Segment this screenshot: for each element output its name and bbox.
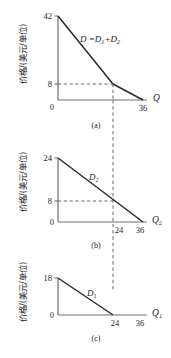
panel-a-curve-label-plus: +D — [104, 34, 117, 44]
panel-a-curve-label: D =D1+D2 — [79, 34, 120, 45]
panel-c-ytick-label-0: 0 — [50, 310, 54, 320]
panel-a-ytick-label-0: 0 — [50, 102, 54, 112]
panel-b-x-axis-name: Q2 — [152, 215, 162, 226]
panel-c-x-axis-name-sub: 1 — [159, 312, 162, 319]
panel-c-curve-label: D1 — [86, 288, 97, 299]
panel-b-ytick-label-24: 24 — [44, 153, 53, 163]
panel-c-demand-curve — [58, 278, 113, 315]
chart-panel-b: 价格/(美元/单位) 24 8 0 24 36 Q2 D2 (b) — [18, 152, 162, 250]
demand-curves-figure: 价格/(美元/单位) 42 8 0 36 Q D =D1+D2 — [0, 0, 171, 358]
panel-b-curve-label: D2 — [88, 172, 99, 183]
panel-c-ytick-label-18: 18 — [44, 273, 53, 283]
panel-a-x-axis-name: Q — [153, 93, 160, 103]
panel-b-ytick-label-8: 8 — [48, 196, 52, 206]
panel-b-xtick-label-36: 36 — [136, 225, 145, 235]
panel-a-ytick-label-8: 8 — [48, 79, 52, 89]
panel-b-y-axis-label: 价格/(美元/单位) — [18, 152, 28, 212]
panel-c-curve-label-sub: 1 — [94, 292, 97, 299]
chart-panel-a: 价格/(美元/单位) 42 8 0 36 Q D =D1+D2 — [18, 11, 160, 130]
panel-a-ytick-label-42: 42 — [44, 11, 53, 21]
panel-c-x-axis-name: Q1 — [152, 308, 162, 319]
panel-b-demand-curve — [58, 158, 143, 222]
panel-a-demand-curve — [58, 16, 143, 100]
chart-panel-c: 价格/(美元/单位) 18 0 24 36 Q1 D1 (c) — [18, 262, 162, 343]
panel-b-ytick-label-0: 0 — [50, 217, 54, 227]
panel-c-caption: (c) — [92, 334, 101, 343]
panel-a-y-axis-label: 价格/(美元/单位) — [18, 24, 28, 84]
panel-b-curve-label-sub: 2 — [96, 176, 99, 183]
panel-c-xtick-label-24: 24 — [111, 318, 120, 328]
panel-b-caption: (b) — [91, 241, 101, 250]
panel-a-curve-label-main: D =D — [79, 34, 102, 44]
svg-text:D =D1+D2: D =D1+D2 — [79, 34, 120, 45]
panel-a-caption: (a) — [92, 121, 101, 130]
panel-a-curve-label-sub2: 2 — [117, 38, 120, 45]
panel-c-xtick-label-36: 36 — [136, 318, 145, 328]
panel-c-y-axis-label: 价格/(美元/单位) — [18, 262, 28, 322]
panel-b-xtick-label-24: 24 — [115, 225, 124, 235]
panel-a-xtick-label-36: 36 — [139, 103, 148, 113]
panel-b-x-axis-name-sub: 2 — [159, 219, 162, 226]
